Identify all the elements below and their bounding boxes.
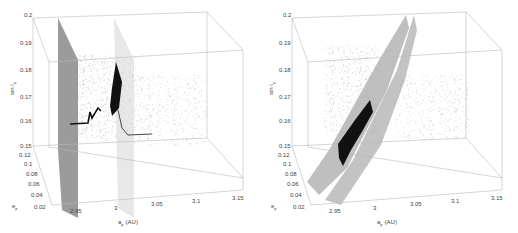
svg-text:3: 3 [114,205,118,211]
svg-text:sin ip: sin ip [268,81,276,95]
svg-text:0.15: 0.15 [279,143,291,149]
svg-text:0.16: 0.16 [279,118,291,124]
right-3d-plot: 0.2 0.19 0.18 0.17 0.16 0.15 0.12 0.1 0.… [259,0,518,233]
svg-text:ap(AU): ap(AU) [118,219,138,227]
svg-text:0.02: 0.02 [34,204,46,210]
svg-text:0.04: 0.04 [290,192,302,198]
svg-text:0.08: 0.08 [26,171,38,177]
svg-text:0.06: 0.06 [28,181,40,187]
svg-text:3.05: 3.05 [151,201,163,207]
svg-text:2.95: 2.95 [70,208,82,214]
svg-text:ap(AU): ap(AU) [377,219,397,227]
left-z-ticks: 0.2 0.19 0.18 0.17 0.16 0.15 [20,12,33,149]
svg-text:3.05: 3.05 [410,201,422,207]
svg-text:ep: ep [271,203,277,211]
svg-text:0.17: 0.17 [279,94,291,100]
left-plot-canvas: 0.2 0.19 0.18 0.17 0.16 0.15 0.12 0.1 0.… [0,0,259,233]
svg-text:0.12: 0.12 [19,152,31,158]
svg-text:3.1: 3.1 [451,198,460,204]
svg-text:0.08: 0.08 [285,171,297,177]
svg-text:0.02: 0.02 [293,204,305,210]
svg-text:0.2: 0.2 [24,12,33,18]
svg-text:0.18: 0.18 [279,67,291,73]
svg-text:3.15: 3.15 [491,195,503,201]
svg-text:sin ip: sin ip [9,81,17,95]
svg-text:0.1: 0.1 [24,161,33,167]
svg-text:0.15: 0.15 [20,143,32,149]
right-y-ticks: 0.12 0.1 0.08 0.06 0.04 0.02 [278,152,305,210]
svg-text:0.1: 0.1 [283,161,292,167]
left-resonance-plane-dark [58,18,78,218]
svg-text:3: 3 [373,205,377,211]
svg-text:0.16: 0.16 [20,118,32,124]
svg-text:3.15: 3.15 [232,195,244,201]
svg-text:0.17: 0.17 [20,94,32,100]
left-resonance-plane-light [114,18,134,218]
right-x-ticks: 2.95 3 3.05 3.1 3.15 [329,195,503,214]
left-3d-plot: 0.2 0.19 0.18 0.17 0.16 0.15 0.12 0.1 0.… [0,0,259,233]
svg-text:0.18: 0.18 [20,67,32,73]
svg-text:ep: ep [12,203,18,211]
svg-text:0.19: 0.19 [20,40,32,46]
svg-text:0.06: 0.06 [287,181,299,187]
svg-text:0.19: 0.19 [279,40,291,46]
right-z-ticks: 0.2 0.19 0.18 0.17 0.16 0.15 [279,12,292,149]
left-family-cluster [70,62,152,135]
right-plot-canvas: 0.2 0.19 0.18 0.17 0.16 0.15 0.12 0.1 0.… [259,0,518,233]
svg-text:0.04: 0.04 [31,192,43,198]
left-y-ticks: 0.12 0.1 0.08 0.06 0.04 0.02 [19,152,46,210]
svg-text:0.2: 0.2 [283,12,292,18]
left-x-ticks: 2.95 3 3.05 3.1 3.15 [70,195,244,214]
svg-text:2.95: 2.95 [329,208,341,214]
left-dots [75,55,206,146]
svg-text:0.12: 0.12 [278,152,290,158]
svg-text:3.1: 3.1 [192,198,201,204]
